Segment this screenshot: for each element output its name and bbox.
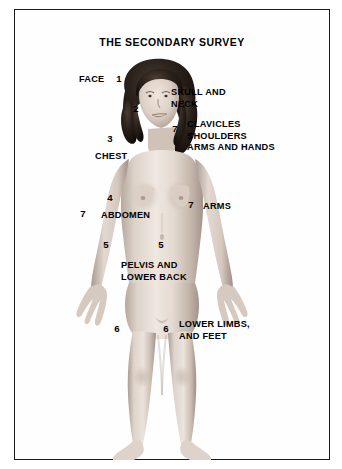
label-abdomen: ABDOMEN bbox=[101, 210, 150, 222]
left-hand-shape bbox=[76, 284, 107, 326]
label-face: FACE bbox=[79, 74, 105, 86]
marker-2-neck: 2 bbox=[130, 104, 142, 114]
label-lower-limbs: LOWER LIMBS, AND FEET bbox=[179, 319, 250, 342]
marker-7-arm-right: 7 bbox=[185, 200, 197, 210]
marker-6-limb-left: 6 bbox=[111, 324, 123, 334]
marker-3-chest: 3 bbox=[104, 134, 116, 144]
marker-7-shoulder-right: 7 bbox=[169, 124, 181, 134]
marker-5-pelvis-left: 5 bbox=[100, 240, 112, 250]
right-leg-shape bbox=[168, 331, 196, 448]
body-figure-illustration bbox=[63, 55, 263, 460]
label-skull-neck: SKULL AND NECK bbox=[171, 87, 226, 110]
marker-1-face: 1 bbox=[113, 74, 125, 84]
left-leg-shape bbox=[128, 331, 156, 448]
right-foot-shape bbox=[180, 440, 211, 460]
diagram-frame: THE SECONDARY SURVEY bbox=[14, 9, 330, 460]
marker-7-arm-left: 7 bbox=[77, 209, 89, 219]
left-foot-shape bbox=[113, 440, 144, 460]
marker-5-pelvis-right: 5 bbox=[155, 240, 167, 250]
label-pelvis: PELVIS AND LOWER BACK bbox=[121, 260, 187, 283]
label-clavicles: CLAVICLES SHOULDERS ARMS AND HANDS bbox=[187, 119, 275, 154]
marker-6-limb-right: 6 bbox=[160, 324, 172, 334]
anatomical-figure-image bbox=[63, 55, 263, 460]
label-arms: ARMS bbox=[203, 201, 231, 213]
page-title: THE SECONDARY SURVEY bbox=[15, 36, 329, 48]
label-chest: CHEST bbox=[95, 151, 127, 163]
secondary-survey-diagram: THE SECONDARY SURVEY bbox=[0, 0, 342, 469]
marker-4-abdomen: 4 bbox=[104, 193, 116, 203]
